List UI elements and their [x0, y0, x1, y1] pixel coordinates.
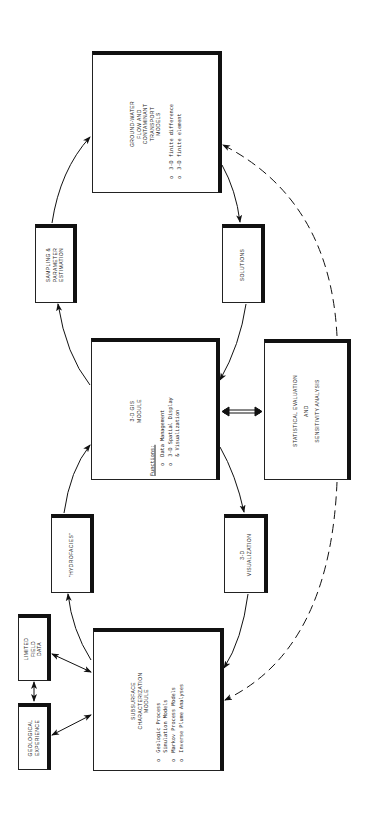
node-groundwater-models: GROUND-WATER FLOW AND CONTAMINANT TRANSP… [92, 51, 222, 193]
groundwater-title: GROUND-WATER FLOW AND CONTAMINANT TRANSP… [129, 55, 162, 193]
arrow-gis-to-visualization [220, 447, 244, 512]
arrow-hydrofacies-to-gis [64, 445, 90, 513]
node-limited-field-data: LIMITED FIELD DATA [18, 614, 51, 681]
node-3d-gis-module: 3-D GIS MODULE Functions: o Data Managem… [91, 338, 220, 480]
node-3d-visualization: 3-D VISUALIZATION [224, 514, 268, 593]
node-hydrofacies: "HYDROFACIES" [51, 514, 94, 593]
groundwater-bullets: o 3-D finite difference o 3-D finite ele… [166, 55, 182, 193]
arrow-fielddata-subsurface [52, 654, 91, 672]
node-solutions: SOLUTIONS [222, 224, 265, 303]
gis-functions-label: Functions: [148, 346, 156, 476]
arrow-groundwater-to-solutions [222, 165, 240, 222]
diagram-canvas: GROUND-WATER FLOW AND CONTAMINANT TRANSP… [0, 0, 365, 815]
subsurface-bullets: o Geologic Process Simulation Models o M… [154, 632, 184, 770]
double-arrow-gis-statistical [222, 407, 262, 416]
arrow-subsurface-to-hydrofacies [68, 594, 91, 660]
node-sampling-parameter-estimation: SAMPLING & PARAMETER ESTIMATION [35, 224, 77, 303]
node-subsurface-characterization: SUBSURFACE CHARACTERIZATION MODULE o Geo… [93, 628, 224, 771]
arrow-solutions-to-gis [220, 304, 246, 380]
gis-bullets: o Data Management o 3-D Spatial Display … [158, 346, 180, 476]
arrow-sampling-to-groundwater [52, 137, 90, 223]
node-statistical-evaluation: STATISTICAL EVALUATION AND SENSITIVITY A… [264, 339, 351, 480]
node-geological-experience: GEOLOGICAL EXPERIENCE [18, 703, 51, 770]
arrow-gis-to-sampling [58, 304, 90, 385]
arrow-visualization-to-subsurface [224, 594, 248, 668]
arrow-geoexperience-subsurface [52, 715, 91, 735]
